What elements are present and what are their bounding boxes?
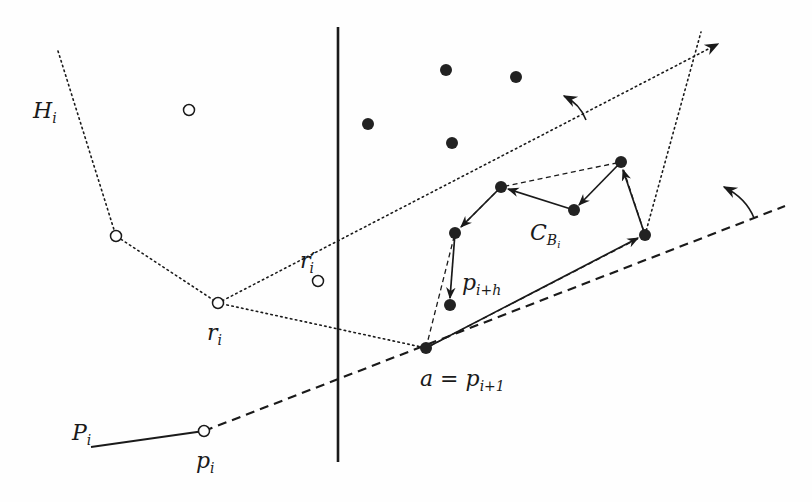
filled-point — [362, 118, 374, 130]
filled-point — [446, 137, 458, 149]
label-r-i: ri — [207, 322, 222, 347]
filled-point — [510, 71, 522, 83]
point-p-i-plus-h — [444, 299, 456, 311]
diagram-svg — [0, 0, 812, 502]
label-a-equals-p-i-plus-1: a = pi+1 — [420, 368, 505, 393]
point-p-i — [199, 426, 210, 437]
point-r-i — [213, 298, 224, 309]
rotation-arrow-lower — [724, 187, 754, 218]
rotation-arrow-upper — [564, 96, 586, 120]
hull-c-b-i-dashed — [426, 162, 645, 348]
hollow-point — [184, 105, 195, 116]
filled-point — [440, 64, 452, 76]
tangent-r-i-dotted — [218, 44, 718, 303]
dotted-line-right — [645, 32, 701, 235]
hollow-point — [111, 231, 122, 242]
label-h-i: Hi — [33, 100, 57, 125]
label-p-upper-i: Pi — [72, 422, 91, 447]
polyline-p-i — [91, 431, 204, 447]
filled-point — [449, 227, 461, 239]
filled-points — [362, 64, 651, 354]
hollow-points — [111, 105, 324, 437]
convex-hull-diagram: Hi ri r′i Pi pi a = pi+1 pi+h CBi — [0, 0, 812, 502]
label-r-i-prime: r′i — [300, 250, 314, 275]
label-c-b-i: CBi — [530, 222, 560, 250]
filled-point — [615, 156, 627, 168]
label-p-i-plus-h: pi+h — [462, 272, 501, 297]
label-p-i: pi — [196, 450, 215, 475]
filled-point — [568, 204, 580, 216]
filled-point — [495, 181, 507, 193]
hull-h-i-dotted — [58, 51, 426, 348]
point-a — [420, 342, 432, 354]
point-r-i-prime — [313, 276, 324, 287]
filled-point — [639, 229, 651, 241]
chain-c-b-i — [426, 162, 645, 348]
